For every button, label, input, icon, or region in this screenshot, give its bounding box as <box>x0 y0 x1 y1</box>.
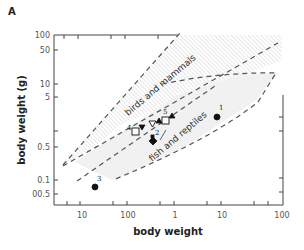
point-3-label: 3 <box>97 175 101 183</box>
point-4-square <box>132 128 139 135</box>
point-1 <box>214 114 220 120</box>
scatter-chart: 100 50 10 5 0.5 0.1 00.5 10 100 1 10 100… <box>0 0 304 250</box>
point-5-label: 5 <box>163 108 167 116</box>
y-tick-10: 10 <box>40 80 50 89</box>
y-tick-00-5: 00.5 <box>32 190 50 199</box>
x-tick-10b: 10 <box>217 211 227 220</box>
x-tick-1: 1 <box>172 211 177 220</box>
x-axis-title: body weight <box>133 226 203 237</box>
x-tick-100a: 100 <box>120 211 135 220</box>
point-small-square <box>151 135 154 138</box>
y-tick-0-1: 0.1 <box>37 176 50 185</box>
point-3 <box>92 184 98 190</box>
y-tick-50: 50 <box>40 46 50 55</box>
x-tick-100b: 100 <box>274 211 289 220</box>
y-tick-100: 100 <box>35 31 50 40</box>
y-axis-title: body weight (g) <box>16 75 27 164</box>
y-tick-5: 5 <box>45 93 50 102</box>
point-2-label: 2 <box>155 129 159 137</box>
y-tick-0-5: 0.5 <box>37 143 50 152</box>
point-1-label: 1 <box>219 104 223 112</box>
x-tick-10a: 10 <box>77 211 87 220</box>
point-4-label: 4 <box>127 124 132 132</box>
point-5-square <box>162 117 169 124</box>
